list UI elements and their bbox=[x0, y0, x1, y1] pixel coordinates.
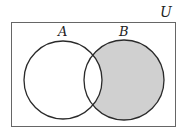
venn-diagram: U A B bbox=[0, 0, 186, 135]
shaded-region-b-minus-a bbox=[0, 0, 186, 135]
set-b-label: B bbox=[118, 24, 129, 39]
set-a-label: A bbox=[57, 24, 67, 39]
universe-label: U bbox=[160, 4, 173, 20]
